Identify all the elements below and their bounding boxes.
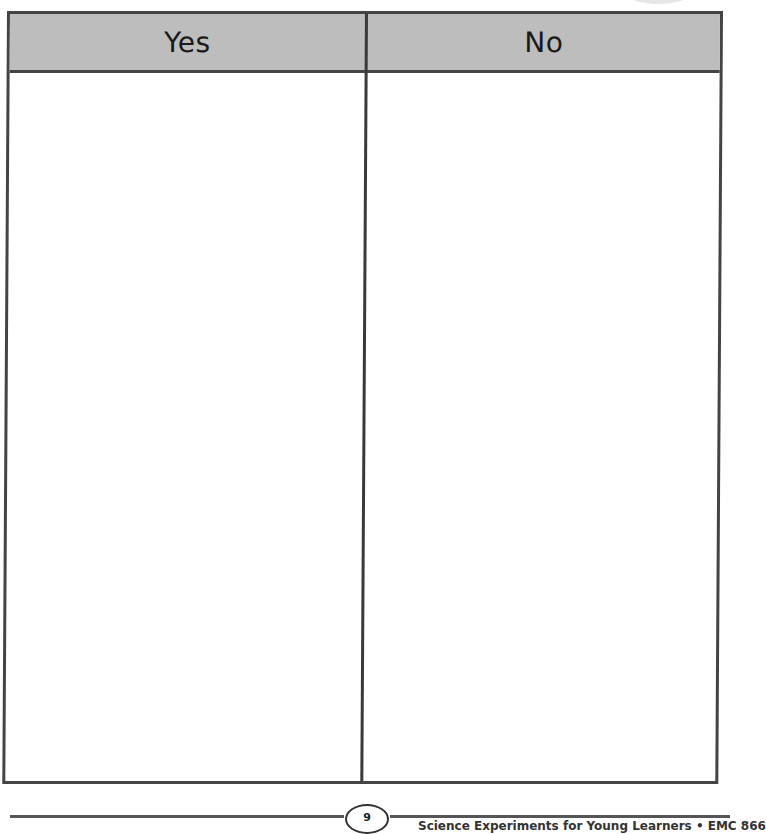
page-number: 9 [363, 811, 371, 824]
column-header-no: No [368, 14, 720, 70]
yes-no-sorting-chart: Yes No [2, 11, 723, 784]
page-number-badge: 9 [345, 804, 389, 834]
no-column-writing-area[interactable] [363, 73, 719, 781]
footer-credit: Science Experiments for Young Learners •… [418, 819, 766, 833]
decorative-corner-shape [628, 0, 688, 4]
footer-rule-left [10, 815, 344, 818]
footer-rule-right [390, 815, 730, 818]
column-header-yes: Yes [10, 14, 365, 70]
yes-column-writing-area[interactable] [5, 73, 364, 781]
